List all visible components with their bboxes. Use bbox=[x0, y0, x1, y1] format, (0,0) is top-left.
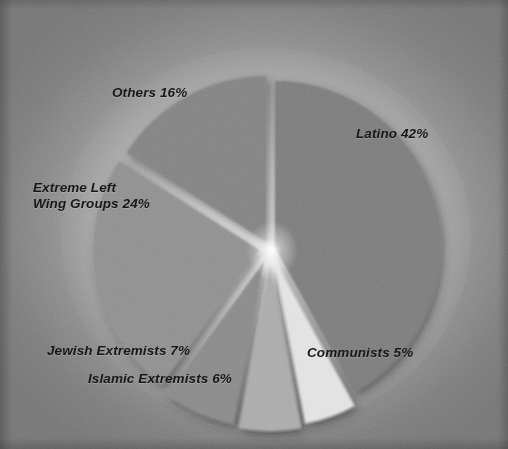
slice-label-extreme-left-line1: Extreme Left bbox=[33, 180, 116, 195]
slice-label-extreme-left-wing-groups: Extreme LeftWing Groups 24% bbox=[33, 180, 150, 212]
pie-chart-graphic bbox=[0, 0, 508, 449]
slice-label-latino: Latino 42% bbox=[356, 126, 428, 142]
pie-chart-figure: Others 16% Latino 42% Extreme LeftWing G… bbox=[0, 0, 508, 449]
slice-label-others: Others 16% bbox=[112, 85, 187, 101]
slice-label-jewish-extremists: Jewish Extremists 7% bbox=[47, 343, 190, 359]
slice-label-communists: Communists 5% bbox=[307, 345, 413, 361]
slice-label-islamic-extremists: Islamic Extremists 6% bbox=[88, 371, 232, 387]
pie-center-highlight bbox=[246, 220, 298, 280]
slice-label-extreme-left-line2: Wing Groups 24% bbox=[33, 196, 150, 211]
